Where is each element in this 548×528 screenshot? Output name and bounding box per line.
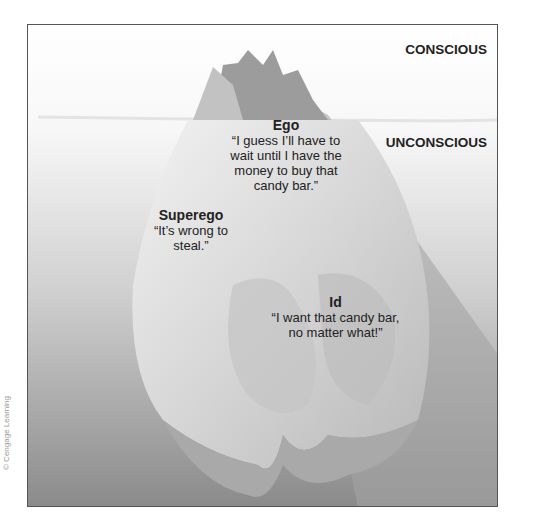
superego-quote: “It’s wrong to steal.” <box>154 223 228 253</box>
superego-label: Superego “It’s wrong to steal.” <box>146 208 236 253</box>
ego-title: Ego <box>226 118 346 133</box>
id-title: Id <box>268 295 403 310</box>
id-quote: “I want that candy bar, no matter what!” <box>272 310 400 340</box>
iceberg-diagram: CONSCIOUS UNCONSCIOUS Ego “I guess I’ll … <box>27 24 498 507</box>
conscious-label: CONSCIOUS <box>405 42 487 57</box>
superego-title: Superego <box>146 208 236 223</box>
unconscious-label: UNCONSCIOUS <box>386 135 487 150</box>
iceberg-illustration <box>28 25 498 507</box>
copyright-credit: © Cengage Learning <box>2 396 11 470</box>
id-label: Id “I want that candy bar, no matter wha… <box>268 295 403 340</box>
ego-label: Ego “I guess I’ll have to wait until I h… <box>226 118 346 193</box>
ego-quote: “I guess I’ll have to wait until I have … <box>230 133 341 193</box>
